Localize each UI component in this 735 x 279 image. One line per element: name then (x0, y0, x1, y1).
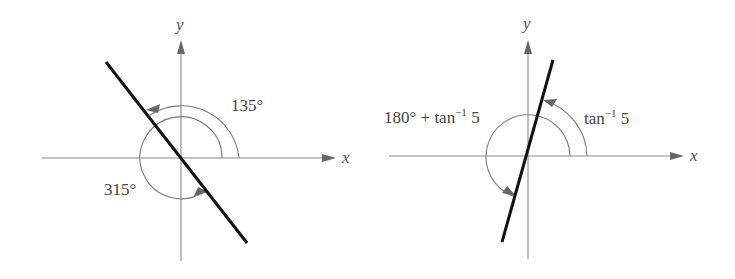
arc-arrowhead-icon (146, 104, 160, 113)
angle-label-135: 135° (231, 96, 263, 115)
angle-arc-arctan5 (545, 101, 587, 156)
figure-canvas: x y 135° 315° x y (0, 0, 735, 279)
x-axis-label-left: x (341, 148, 350, 167)
arc-arrowhead-icon (543, 99, 557, 107)
right-diagram: x y tan−1 5 180° + tan−1 5 (384, 14, 698, 259)
x-axis-label-right: x (689, 146, 698, 165)
x-axis-arrowhead-icon (322, 154, 336, 162)
angle-label-315: 315° (104, 180, 136, 199)
left-diagram: x y 135° 315° (42, 15, 350, 261)
angle-label-180-plus-arctan5: 180° + tan−1 5 (384, 106, 480, 127)
angle-label-arctan5: tan−1 5 (584, 107, 629, 128)
y-axis-arrowhead-icon (524, 40, 532, 54)
line-135-degrees (106, 62, 247, 243)
angle-arc-135 (150, 106, 239, 158)
y-axis-label-left: y (174, 15, 184, 34)
y-axis-arrowhead-icon (177, 40, 185, 54)
y-axis-label-right: y (521, 14, 531, 33)
x-axis-arrowhead-icon (670, 152, 684, 160)
